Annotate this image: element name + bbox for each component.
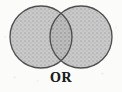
venn-diagram-figure: OR	[0, 0, 122, 92]
venn-operation-label: OR	[0, 70, 122, 86]
